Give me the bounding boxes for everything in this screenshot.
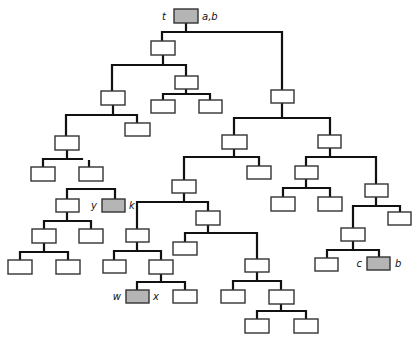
tree-node <box>172 180 196 193</box>
tree-edge <box>44 212 91 229</box>
node-label: c <box>357 258 363 269</box>
tree-node <box>318 135 341 148</box>
tree-node <box>269 290 294 304</box>
tree-node <box>222 135 247 149</box>
tree-node <box>196 211 220 225</box>
tree-node <box>295 166 318 179</box>
tree-node <box>271 197 295 211</box>
tree-node <box>31 167 55 181</box>
tree-diagram: ta,bykwxcb <box>0 0 420 344</box>
tree-node <box>245 259 269 272</box>
tree-node <box>199 100 222 113</box>
highlighted-tree-node <box>367 257 390 270</box>
tree-node <box>56 199 79 212</box>
tree-node <box>247 166 271 179</box>
tree-node <box>79 167 103 181</box>
tree-node <box>125 123 150 136</box>
tree-node <box>32 229 56 243</box>
tree-edge <box>114 242 161 260</box>
tree-nodes <box>8 9 411 333</box>
tree-node <box>341 228 365 241</box>
tree-node <box>101 91 125 105</box>
tree-edge <box>257 304 306 319</box>
tree-node <box>173 242 197 255</box>
tree-node <box>56 260 80 274</box>
tree-edge <box>67 189 115 199</box>
node-label: x <box>152 291 159 302</box>
tree-edge <box>20 243 68 260</box>
tree-edge <box>233 272 281 290</box>
tree-node <box>365 184 388 197</box>
tree-node <box>315 258 338 271</box>
tree-node <box>221 290 245 303</box>
highlighted-tree-node <box>174 9 198 23</box>
tree-edge <box>137 274 185 290</box>
tree-node <box>175 76 198 89</box>
highlighted-tree-node <box>126 290 149 303</box>
tree-node <box>318 197 342 211</box>
tree-node <box>271 90 294 103</box>
tree-edge <box>163 89 210 100</box>
tree-node <box>55 136 79 150</box>
tree-edge <box>327 241 379 258</box>
tree-edge <box>283 179 330 197</box>
node-label: y <box>90 200 98 211</box>
node-label: w <box>113 291 122 302</box>
tree-node <box>79 229 103 243</box>
tree-node <box>388 212 411 225</box>
tree-node <box>173 290 197 303</box>
tree-node <box>151 41 175 55</box>
tree-edge <box>234 103 330 135</box>
tree-node <box>151 100 175 113</box>
node-label: b <box>395 258 401 269</box>
tree-node <box>245 319 269 333</box>
tree-node <box>149 260 173 274</box>
tree-edge <box>43 150 89 167</box>
node-label: a,b <box>202 11 218 22</box>
node-label: t <box>162 11 167 22</box>
node-label: k <box>129 200 136 211</box>
tree-node <box>103 260 126 273</box>
highlighted-tree-node <box>102 199 125 212</box>
tree-node <box>8 260 32 274</box>
tree-node <box>126 229 149 242</box>
tree-node <box>294 319 318 333</box>
